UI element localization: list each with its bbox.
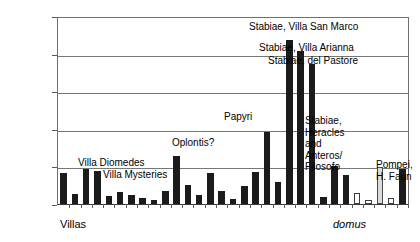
x-tick-mark [397, 204, 398, 208]
x-tick-mark [261, 204, 262, 208]
x-tick-mark [216, 204, 217, 208]
x-tick-mark [306, 204, 307, 208]
bar-chart: 25,000 20,000 15,000 10,000 5,000 0 Stab… [0, 0, 420, 242]
x-tick-mark [137, 204, 138, 208]
x-tick-mark [340, 204, 341, 208]
x-tick-mark [284, 204, 285, 208]
x-tick-mark [148, 204, 149, 208]
bar [343, 175, 350, 204]
x-tick-mark [103, 204, 104, 208]
x-tick-mark [227, 204, 228, 208]
x-tick-mark [126, 204, 127, 208]
x-tick-mark [193, 204, 194, 208]
bar [264, 132, 271, 204]
group-label-domus: domus [333, 218, 366, 230]
annotation-villa-diomedes: Villa Diomedes [78, 157, 145, 169]
gridline-10000 [58, 131, 408, 132]
bar [162, 191, 169, 204]
x-tick-mark [250, 204, 251, 208]
x-tick-mark [318, 204, 319, 208]
x-tick-mark [81, 204, 82, 208]
bar [252, 172, 259, 204]
bar [354, 193, 361, 204]
x-tick-mark [171, 204, 172, 208]
annotation-stabiae-pastore: Stabiae, del Pastore [268, 55, 358, 67]
x-tick-mark [329, 204, 330, 208]
x-tick-mark [160, 204, 161, 208]
bar [185, 185, 192, 204]
x-tick-mark [363, 204, 364, 208]
bar [106, 196, 113, 204]
bar [151, 200, 158, 204]
bar [196, 195, 203, 204]
bar [230, 199, 237, 204]
x-tick-mark [408, 204, 409, 208]
bar [297, 51, 304, 204]
bar [72, 194, 79, 204]
annotation-pompei-faun: Pompei, H. Faun [376, 159, 420, 182]
x-tick-mark [92, 204, 93, 208]
bar [275, 182, 282, 204]
x-tick-mark [205, 204, 206, 208]
group-label-villas: Villas [60, 218, 86, 230]
annotation-villa-mysteries: Villa Mysteries [103, 169, 167, 181]
annotation-oplontis: Oplontis? [172, 137, 214, 149]
x-tick-mark [385, 204, 386, 208]
bar [117, 192, 124, 204]
annotation-stabiae-arianna: Stabiae, Villa Arianna [259, 42, 354, 54]
bar [320, 197, 327, 204]
x-tick-mark [182, 204, 183, 208]
x-tick-mark [273, 204, 274, 208]
annotation-stabiae-heracles: Stabiae, Heracles and Anteros/ Filosofo [305, 115, 353, 173]
bar [218, 191, 225, 204]
bar [94, 171, 101, 204]
bar [365, 200, 372, 204]
bar [173, 156, 180, 204]
annotation-stabiae-san-marco: Stabiae, Villa San Marco [249, 21, 358, 33]
bar [241, 186, 248, 204]
bar [128, 195, 135, 204]
bar [139, 198, 146, 204]
x-tick-mark [114, 204, 115, 208]
annotation-papyri: Papyri [224, 111, 252, 123]
bar [207, 173, 214, 204]
x-tick-mark [352, 204, 353, 208]
bar [388, 198, 395, 204]
x-tick-mark [239, 204, 240, 208]
bar [83, 169, 90, 204]
x-tick-mark [69, 204, 70, 208]
x-tick-mark [295, 204, 296, 208]
bar [60, 173, 67, 204]
y-tick-mark [52, 205, 57, 206]
x-tick-mark [374, 204, 375, 208]
gridline-15000 [58, 93, 408, 94]
